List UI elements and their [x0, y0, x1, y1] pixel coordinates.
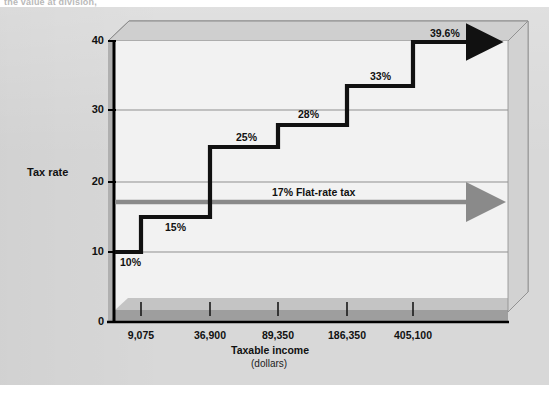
- x-tick-label-36900: 36,900: [180, 329, 240, 341]
- x-axis-title: Taxable income: [231, 344, 309, 356]
- y-tick-label-10: 10: [82, 245, 104, 257]
- y-tick-label-30: 30: [82, 103, 104, 115]
- x-tick-label-89350: 89,350: [248, 329, 308, 341]
- data-label-15-percent: 15%: [165, 221, 186, 233]
- floor-top-face: [115, 298, 521, 310]
- floor-face: [115, 310, 508, 322]
- x-tick-label-9075: 9,075: [111, 329, 171, 341]
- data-label-28-percent: 28%: [298, 108, 319, 120]
- right-wall-depth: [508, 21, 528, 312]
- x-tick-label-405100: 405,100: [383, 329, 443, 341]
- figure-page: the value at division,: [0, 0, 549, 395]
- y-tick-label-20: 20: [82, 175, 104, 187]
- ceiling-face: [108, 21, 528, 41]
- x-axis-subtitle: (dollars): [251, 358, 287, 369]
- data-label-flat-rate-tax: 17% Flat-rate tax: [272, 186, 355, 198]
- y-axis-title: Tax rate: [27, 166, 68, 178]
- y-tick-label-40: 40: [82, 34, 104, 46]
- y-tick-label-0: 0: [82, 315, 104, 327]
- x-tick-label-186350: 186,350: [317, 329, 377, 341]
- data-label-33-percent: 33%: [370, 70, 391, 82]
- data-label-25-percent: 25%: [236, 131, 257, 143]
- data-label-39-6-percent: 39.6%: [430, 27, 460, 39]
- data-label-10-percent: 10%: [120, 256, 141, 268]
